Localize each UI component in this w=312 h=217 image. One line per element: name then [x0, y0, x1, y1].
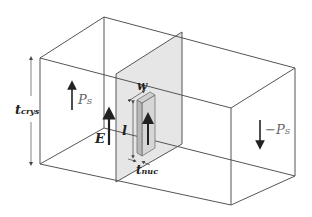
crystal-thickness-label: tcrys [15, 103, 39, 116]
domain-nucleus [137, 92, 155, 156]
crystal-diagram [0, 0, 312, 217]
field-label: E [95, 132, 105, 145]
nucleus-length-label: l [122, 124, 127, 137]
left-polarization-label: PS [78, 93, 92, 106]
nucleus-width-label: w [137, 80, 147, 92]
right-polarization-label: −PS [265, 123, 290, 136]
nucleus-thickness-label: tnuc [136, 164, 158, 176]
